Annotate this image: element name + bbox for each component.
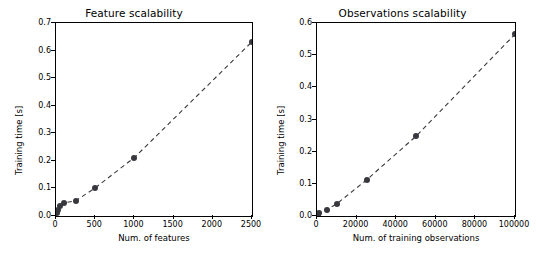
data-point (324, 207, 330, 213)
y-tick-mark (312, 86, 316, 87)
data-point (334, 201, 340, 207)
y-tick-label: 0.4 (289, 82, 312, 91)
y-axis-label-left: Training time [s] (14, 106, 24, 175)
x-tick-label: 40000 (382, 220, 407, 229)
data-point (364, 177, 370, 183)
data-point (92, 185, 98, 191)
x-tick-mark (94, 215, 95, 219)
y-tick-label: 0.4 (28, 100, 51, 109)
data-point (73, 198, 79, 204)
x-tick-mark (316, 215, 317, 219)
x-tick-mark (133, 215, 134, 219)
x-tick-label: 1000 (123, 220, 143, 229)
x-axis-label-right: Num. of training observations (316, 233, 516, 243)
x-tick-label: 60000 (422, 220, 447, 229)
y-tick-mark (51, 105, 55, 106)
y-tick-mark (312, 151, 316, 152)
x-tick-mark (395, 215, 396, 219)
plot-area-right (316, 22, 516, 217)
data-line-0 (56, 23, 252, 216)
data-point (317, 210, 322, 216)
x-tick-mark (173, 215, 174, 219)
y-tick-mark (51, 77, 55, 78)
y-tick-label: 0.6 (289, 18, 312, 27)
data-point (413, 133, 419, 139)
y-tick-mark (312, 22, 316, 23)
x-tick-mark (514, 215, 515, 219)
data-point (131, 155, 137, 161)
y-tick-mark (312, 119, 316, 120)
y-tick-mark (51, 22, 55, 23)
x-tick-mark (474, 215, 475, 219)
y-tick-mark (51, 215, 55, 216)
x-axis-label-left: Num. of features (55, 233, 253, 243)
data-point (249, 39, 252, 45)
x-tick-label: 20000 (343, 220, 368, 229)
data-line-1 (317, 23, 515, 216)
y-tick-label: 0.1 (28, 183, 51, 192)
y-tick-label: 0.0 (28, 211, 51, 220)
x-tick-label: 2500 (241, 220, 261, 229)
data-point (61, 200, 67, 206)
chart-panel-observations-scalability: Observations scalability 020000400006000… (268, 0, 537, 263)
y-tick-label: 0.2 (289, 146, 312, 155)
x-tick-label: 0 (313, 220, 318, 229)
chart-panel-feature-scalability: Feature scalability 05001000150020002500… (0, 0, 268, 263)
x-tick-label: 1500 (162, 220, 182, 229)
y-tick-label: 0.1 (289, 178, 312, 187)
plot-area-left (55, 22, 253, 217)
y-tick-mark (312, 215, 316, 216)
x-tick-label: 500 (87, 220, 102, 229)
x-tick-label: 0 (52, 220, 57, 229)
y-axis-label-right: Training time [s] (276, 106, 286, 175)
y-tick-label: 0.7 (28, 18, 51, 27)
data-point (512, 31, 515, 37)
x-tick-mark (212, 215, 213, 219)
x-tick-label: 2000 (202, 220, 222, 229)
figure: Feature scalability 05001000150020002500… (0, 0, 537, 263)
y-tick-mark (51, 160, 55, 161)
x-tick-mark (435, 215, 436, 219)
y-tick-label: 0.0 (289, 211, 312, 220)
y-tick-mark (51, 132, 55, 133)
x-tick-label: 100000 (499, 220, 530, 229)
y-tick-mark (51, 50, 55, 51)
x-tick-mark (55, 215, 56, 219)
y-tick-label: 0.2 (28, 155, 51, 164)
y-tick-label: 0.3 (28, 128, 51, 137)
x-tick-label: 80000 (462, 220, 487, 229)
y-tick-label: 0.5 (28, 73, 51, 82)
x-tick-mark (251, 215, 252, 219)
y-tick-mark (312, 183, 316, 184)
y-tick-mark (312, 54, 316, 55)
y-tick-label: 0.5 (289, 50, 312, 59)
y-tick-label: 0.6 (28, 45, 51, 54)
y-tick-label: 0.3 (289, 114, 312, 123)
x-tick-mark (356, 215, 357, 219)
y-tick-mark (51, 187, 55, 188)
